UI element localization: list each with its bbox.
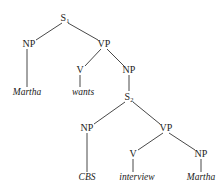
edge-vp-v xyxy=(85,49,101,66)
node-v: V xyxy=(76,65,83,75)
leaf-cbs: CBS xyxy=(79,173,96,183)
leaf-martha: Martha xyxy=(13,88,42,98)
edge-vp-np2 xyxy=(169,133,195,150)
edge-s2-vp xyxy=(133,102,160,124)
node-np: NP xyxy=(81,123,94,133)
leaf-interview: interview xyxy=(119,173,154,183)
node-vp: VP xyxy=(98,39,111,49)
node-v: V xyxy=(129,149,136,159)
edge-s1-np xyxy=(36,23,62,40)
node-s2: S2 xyxy=(125,92,134,102)
edge-s2-np xyxy=(94,102,125,124)
edge-vp-np xyxy=(107,49,124,66)
node-vp: VP xyxy=(160,123,173,133)
node-s1: S1 xyxy=(61,13,70,23)
node-subscript: 1 xyxy=(66,17,69,24)
node-label: S xyxy=(125,91,131,102)
edge-s1-vp xyxy=(68,23,98,40)
node-subscript: 2 xyxy=(130,96,133,103)
edge-vp-v2 xyxy=(138,133,163,150)
node-np: NP xyxy=(23,39,36,49)
node-np: NP xyxy=(195,149,208,159)
leaf-martha: Martha xyxy=(187,173,216,183)
node-label: S xyxy=(61,12,67,23)
leaf-wants: wants xyxy=(72,88,94,98)
node-np: NP xyxy=(123,65,136,75)
